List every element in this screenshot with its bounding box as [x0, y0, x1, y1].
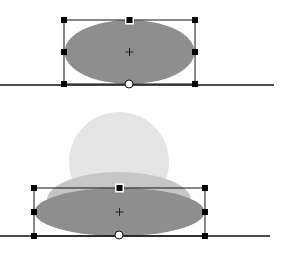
resize-handle-top-left[interactable]	[61, 17, 67, 23]
resize-handle-bottom-right[interactable]	[202, 233, 208, 239]
after-squash-panel	[0, 112, 270, 239]
resize-handle-middle-right[interactable]	[192, 49, 198, 55]
resize-handle-top-middle[interactable]	[127, 17, 133, 23]
resize-handle-middle-left[interactable]	[31, 209, 37, 215]
resize-handle-middle-right[interactable]	[202, 209, 208, 215]
resize-handle-top-left[interactable]	[31, 185, 37, 191]
pivot-point-icon[interactable]	[125, 80, 133, 88]
resize-handle-bottom-left[interactable]	[61, 81, 67, 87]
resize-handle-top-right[interactable]	[202, 185, 208, 191]
resize-handle-bottom-right[interactable]	[192, 81, 198, 87]
resize-handle-bottom-left[interactable]	[31, 233, 37, 239]
resize-handle-top-middle[interactable]	[117, 185, 123, 191]
before-squash-panel	[0, 16, 274, 89]
pivot-point-icon[interactable]	[115, 231, 123, 239]
resize-handle-top-right[interactable]	[192, 17, 198, 23]
diagram-canvas	[0, 0, 283, 257]
resize-handle-middle-left[interactable]	[61, 49, 67, 55]
